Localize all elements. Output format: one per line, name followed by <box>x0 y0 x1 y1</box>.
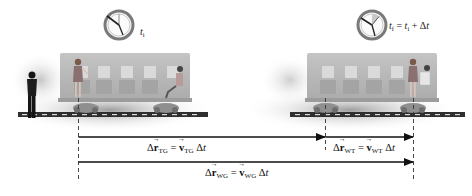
clock-final-label: tf = ti + Δt <box>389 20 429 32</box>
label-delta-r-tg: ΔrTG = vTG Δt <box>147 143 206 155</box>
label-delta-r-wg: ΔrWG = vWG Δt <box>205 168 269 180</box>
train-scene-final <box>240 11 465 132</box>
train-scene-initial <box>5 11 215 132</box>
label-delta-r-wt: ΔrWT = vWT Δt <box>333 143 395 155</box>
clock-initial-label: ti <box>140 26 145 38</box>
clock-initial-icon <box>105 11 133 39</box>
clock-final-icon <box>358 11 386 39</box>
